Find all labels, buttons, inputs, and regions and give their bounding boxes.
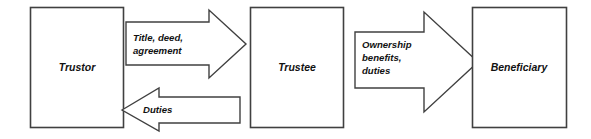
- node-beneficiary-label: Beneficiary: [491, 61, 549, 73]
- arrow-trustee-to-trustor-label-line-1: Duties: [143, 104, 172, 115]
- node-beneficiary[interactable]: Beneficiary: [473, 8, 567, 128]
- arrow-trustee-to-beneficiary-label-line-3: duties: [362, 65, 390, 76]
- node-trustor-label: Trustor: [59, 61, 96, 73]
- trust-relationship-diagram: Trustor Title, deed, agreement Duties Tr…: [0, 0, 591, 139]
- arrow-trustee-to-trustor[interactable]: Duties: [122, 88, 240, 131]
- arrow-trustee-to-trustor-shape: [122, 88, 240, 131]
- arrow-trustee-to-beneficiary-label-line-2: benefits,: [362, 52, 401, 63]
- arrow-trustor-to-trustee[interactable]: Title, deed, agreement: [126, 10, 246, 78]
- node-trustor[interactable]: Trustor: [31, 8, 124, 128]
- diagram-canvas: Trustor Title, deed, agreement Duties Tr…: [0, 0, 591, 139]
- arrow-trustee-to-beneficiary-label-line-1: Ownership: [362, 39, 412, 50]
- arrow-trustor-to-trustee-shape: [126, 10, 246, 78]
- node-trustee[interactable]: Trustee: [251, 8, 344, 128]
- arrow-trustor-to-trustee-label-line-1: Title, deed,: [133, 32, 183, 43]
- arrow-trustee-to-beneficiary[interactable]: Ownership benefits, duties: [355, 12, 478, 112]
- node-trustee-label: Trustee: [278, 61, 316, 73]
- arrow-trustor-to-trustee-label-line-2: agreement: [133, 45, 182, 56]
